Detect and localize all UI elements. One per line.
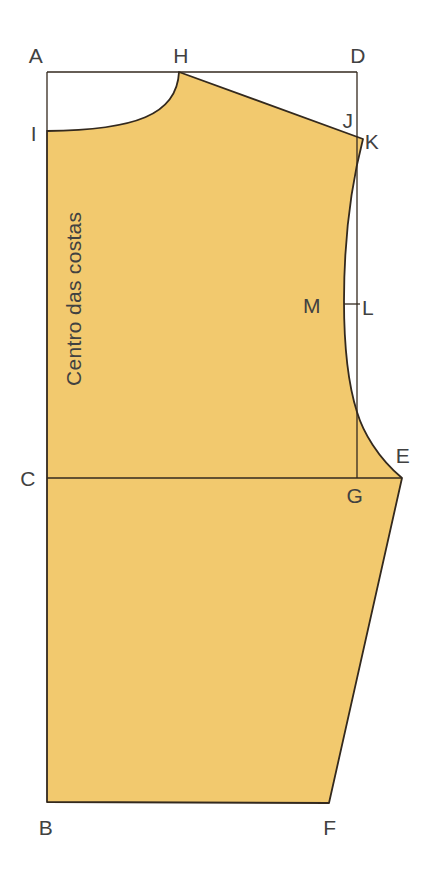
point-label-b: B [39, 816, 54, 839]
point-label-c: C [20, 467, 36, 490]
point-label-l: L [362, 296, 374, 319]
point-label-h: H [173, 44, 189, 67]
point-label-a: A [29, 44, 44, 67]
point-label-d: D [350, 44, 366, 67]
point-label-i: I [31, 122, 37, 145]
point-label-g: G [347, 484, 364, 507]
point-label-j: J [343, 109, 354, 132]
pattern-diagram-canvas: A H D I J K M L C G E B F Centro das cos… [0, 0, 432, 881]
pattern-diagram: A H D I J K M L C G E B F Centro das cos… [0, 0, 432, 881]
point-label-k: K [365, 130, 380, 153]
point-label-e: E [396, 444, 411, 467]
center-back-label: Centro das costas [62, 212, 85, 386]
point-label-f: F [323, 816, 336, 839]
pattern-shape [47, 72, 402, 803]
point-label-m: M [303, 294, 321, 317]
